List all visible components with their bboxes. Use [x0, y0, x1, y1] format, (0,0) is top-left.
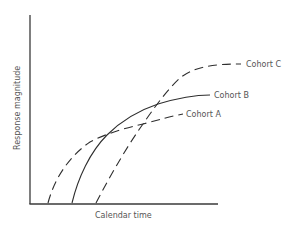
cohort-b-label: Cohort B: [214, 91, 249, 100]
cohort-c-curve: [96, 64, 241, 203]
y-axis-label: Response magnitude: [13, 66, 22, 150]
cohort-a-label: Cohort A: [186, 110, 221, 119]
cohort-response-chart: Cohort C Cohort B Cohort A Calendar time…: [0, 0, 297, 231]
cohort-c-label: Cohort C: [246, 60, 281, 69]
x-axis-label: Calendar time: [95, 211, 152, 220]
